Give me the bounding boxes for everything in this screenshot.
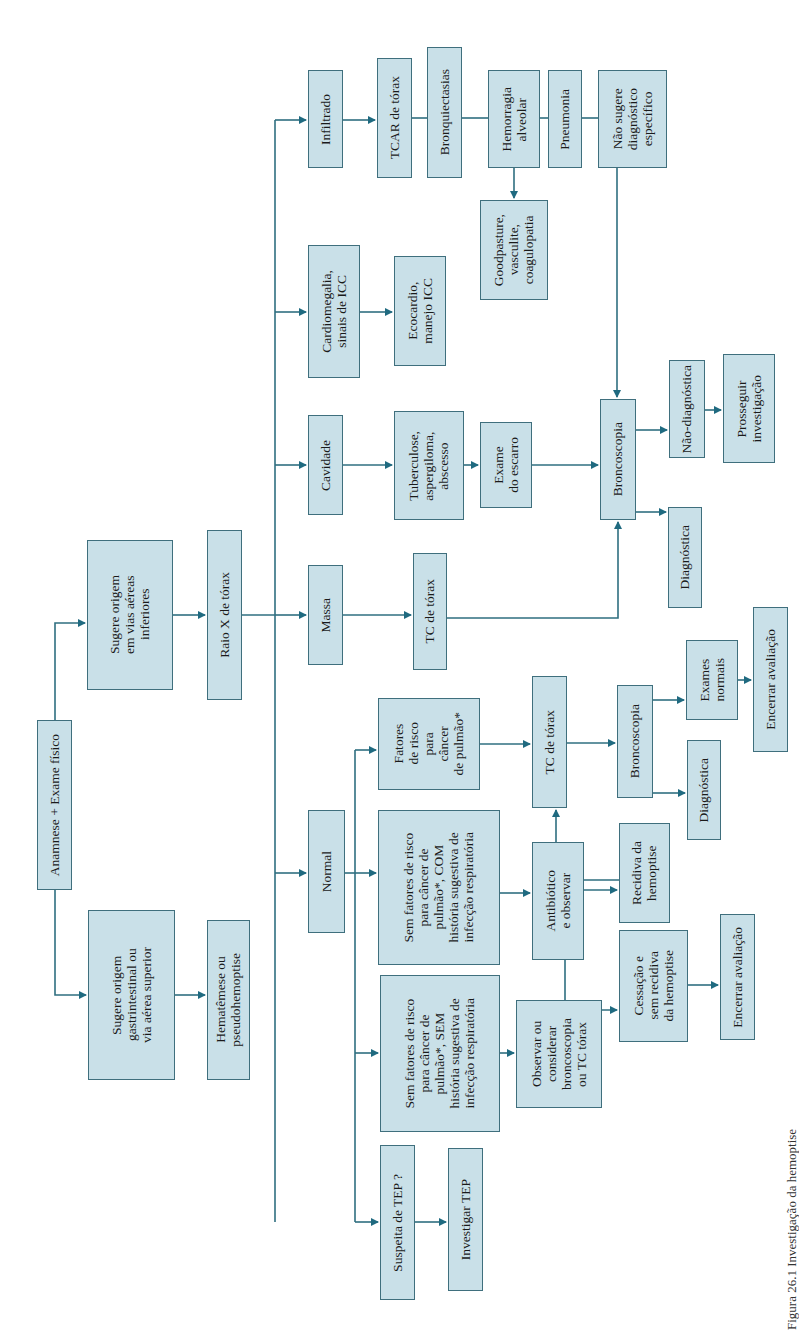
node-cardiomegalia: Cardiomegalia, sinais de ICC	[308, 245, 360, 378]
node-label: Pneumonia	[557, 89, 572, 150]
node-label: Goodpasture, vasculite, coagulopatia	[491, 214, 536, 286]
node-label: Broncoscopia	[627, 704, 642, 778]
node-nao-diagnostica: Não-diagnóstica	[669, 360, 705, 458]
node-pneumonia: Pneumonia	[548, 70, 582, 168]
node-label: Antibiótico e observar	[543, 870, 573, 932]
node-anamnese: Anamnese + Exame físico	[37, 720, 72, 890]
node-label: Cavidade	[318, 440, 333, 491]
node-prosseguir: Prosseguir investigação	[723, 354, 775, 463]
node-cessacao: Cessação e sem recidiva da hemoptise	[619, 930, 688, 1042]
node-label: Sugere origem gastrintestinal ou via aér…	[109, 947, 154, 1043]
node-label: Sem fatores de risco para câncer de pulm…	[402, 998, 478, 1109]
node-infiltrado: Infiltrado	[308, 70, 343, 168]
node-label: Cessação e sem recidiva da hemoptise	[631, 950, 676, 1022]
node-suspeita-tep: Suspeita de TEP ?	[380, 1145, 415, 1300]
node-label: Normal	[319, 851, 334, 892]
node-label: Sugere origem em vias aéreas inferiores	[107, 575, 152, 654]
node-sem-fatores-sem: Sem fatores de risco para câncer de pulm…	[380, 975, 500, 1132]
node-label: Não-diagnóstica	[679, 365, 694, 453]
node-label: Raio X de tórax	[217, 572, 232, 658]
node-label: Investigar TEP	[458, 1179, 473, 1260]
node-label: Sem fatores de risco para câncer de pulm…	[401, 832, 477, 943]
node-broncoscopia-2: Broncoscopia	[617, 685, 653, 798]
node-tc-torax-2: TC de tórax	[532, 676, 567, 808]
node-raio-x: Raio X de tórax	[207, 530, 242, 700]
node-encerrar-1: Encerrar avaliação	[720, 914, 755, 1040]
node-label: TC de tórax	[542, 710, 557, 774]
node-label: Infiltrado	[318, 94, 333, 145]
node-cavidade: Cavidade	[308, 415, 343, 515]
node-label: TCAR de tórax	[387, 76, 402, 159]
node-label: Recidiva da hemoptise	[629, 841, 659, 905]
node-hematemese: Hematêmese ou pseudohemoptise	[207, 920, 250, 1080]
node-label: Cardiomegalia, sinais de ICC	[319, 270, 349, 353]
node-encerrar-2: Encerrar avaliação	[753, 607, 788, 752]
node-recidiva: Recidiva da hemoptise	[619, 823, 670, 923]
node-label: Diagnóstica	[696, 758, 711, 822]
node-label: Diagnóstica	[677, 525, 692, 589]
node-label: Suspeita de TEP ?	[390, 1174, 405, 1272]
node-fatores-risco: Fatores de risco para câncer de pulmão*	[378, 698, 480, 790]
node-sem-fatores-com: Sem fatores de risco para câncer de pulm…	[378, 810, 500, 965]
node-tuberculose: Tuberculose, aspergiloma, abscesso	[394, 411, 464, 520]
node-label: Bronquiectasias	[437, 69, 452, 155]
node-gastro: Sugere origem gastrintestinal ou via aér…	[88, 910, 175, 1080]
node-observar: Observar ou considerar broncoscopia ou T…	[516, 1000, 602, 1108]
node-label: Fatores de risco para câncer de pulmão*	[391, 712, 467, 775]
node-tc-torax-1: TC de tórax	[413, 553, 447, 670]
node-nao-sugere: Não sugere diagnóstico específico	[598, 70, 667, 168]
node-investigar-tep: Investigar TEP	[448, 1148, 483, 1291]
node-exames-normais: Exames normais	[686, 640, 738, 720]
node-diagnostica-1: Diagnóstica	[668, 507, 702, 608]
node-antibiotico: Antibiótico e observar	[532, 842, 584, 960]
node-label: Tuberculose, aspergiloma, abscesso	[406, 431, 451, 501]
figure-caption: Figura 26.1 Investigação da hemoptise	[784, 700, 803, 1330]
node-massa: Massa	[308, 565, 343, 665]
node-label: Exame do escarro	[491, 437, 521, 493]
node-vias-inferiores: Sugere origem em vias aéreas inferiores	[87, 540, 173, 690]
node-label: Hemorragia alveolar	[499, 87, 529, 151]
node-tcar: TCAR de tórax	[377, 58, 412, 178]
node-diagnostica-2: Diagnóstica	[687, 740, 721, 840]
node-hemorragia: Hemorragia alveolar	[488, 70, 540, 168]
node-goodpasture: Goodpasture, vasculite, coagulopatia	[480, 200, 548, 300]
node-label: Encerrar avaliação	[763, 629, 778, 730]
node-label: Não sugere diagnóstico específico	[610, 88, 655, 150]
node-label: Anamnese + Exame físico	[47, 734, 62, 876]
node-label: Broncoscopia	[610, 422, 625, 496]
node-normal: Normal	[308, 810, 345, 933]
node-bronquiectasias: Bronquiectasias	[427, 47, 462, 178]
node-label: Prosseguir investigação	[734, 375, 764, 442]
node-label: Massa	[318, 598, 333, 633]
node-label: Encerrar avaliação	[730, 927, 745, 1028]
node-ecocardio: Ecocardio, manejo ICC	[394, 256, 446, 366]
node-label: Exames normais	[697, 658, 727, 702]
node-label: Hematêmese ou pseudohemoptise	[213, 953, 243, 1047]
node-escarro: Exame do escarro	[480, 422, 532, 508]
node-label: Ecocardio, manejo ICC	[405, 278, 435, 344]
node-broncoscopia-1: Broncoscopia	[600, 399, 636, 520]
node-label: TC de tórax	[422, 579, 437, 643]
node-label: Observar ou considerar broncoscopia ou T…	[529, 1018, 589, 1090]
